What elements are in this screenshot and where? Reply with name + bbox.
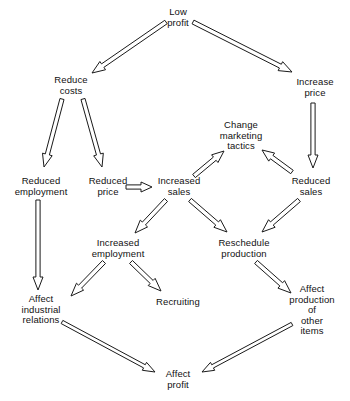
node-affect-industrial-relations: Affect industrial relations — [21, 294, 60, 326]
node-low-profit: Low profit — [167, 7, 189, 28]
node-reduce-costs: Reduce costs — [54, 75, 87, 96]
diagram-canvas: Low profitReduce costsIncrease priceChan… — [0, 0, 350, 401]
node-increased-sales: Increased sales — [158, 176, 201, 197]
node-reduced-sales: Reduced sales — [292, 176, 331, 197]
node-increased-employment: Increased employment — [92, 238, 145, 259]
node-reduced-employment: Reduced employment — [15, 176, 68, 197]
node-layer: Low profitReduce costsIncrease priceChan… — [0, 0, 350, 401]
node-reduced-price: Reduced price — [89, 176, 128, 197]
node-recruiting: Recruiting — [156, 297, 200, 308]
node-affect-profit: Affect profit — [166, 369, 191, 390]
node-affect-production-other: Affect production of other items — [289, 284, 334, 337]
node-reschedule-production: Reschedule production — [218, 238, 269, 259]
node-change-marketing: Change marketing tactics — [220, 120, 263, 152]
node-increase-price: Increase price — [296, 77, 333, 98]
